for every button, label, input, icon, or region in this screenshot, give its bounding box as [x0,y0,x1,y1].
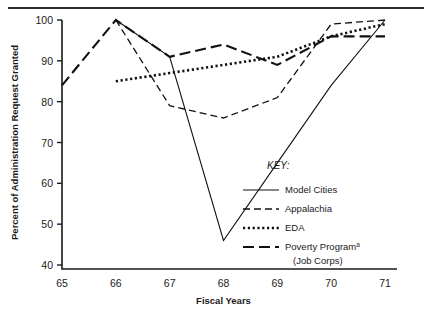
x-tick-label: 66 [110,277,122,289]
legend-label: EDA [285,222,305,233]
x-axis: 65666768697071 [56,277,391,289]
legend-label: Model Cities [285,184,338,195]
legend-label: Appalachia [285,203,333,214]
y-tick-label: 100 [35,14,53,26]
x-tick-label: 65 [56,277,68,289]
y-tick-label: 80 [41,96,53,108]
series-line [116,20,385,241]
y-tick-label: 40 [41,259,53,271]
x-tick-label: 70 [325,277,337,289]
chart-legend: KEY:Model CitiesAppalachiaEDAPoverty Pro… [243,160,360,266]
series-lines [62,20,385,241]
y-axis: 405060708090100 [35,14,62,271]
y-tick-label: 70 [41,137,53,149]
x-tick-label: 71 [379,277,391,289]
y-tick-label: 60 [41,177,53,189]
x-tick-label: 68 [218,277,230,289]
y-tick-label: 50 [41,218,53,230]
x-tick-label: 67 [164,277,176,289]
legend-title: KEY: [267,160,290,171]
x-tick-label: 69 [271,277,283,289]
legend-label: Poverty Programa [285,241,360,253]
y-axis-title: Percent of Administration Request Grante… [9,45,20,240]
chart-figure: 405060708090100 65666768697071 Percent o… [0,0,432,311]
line-chart-plot: 405060708090100 65666768697071 Percent o… [0,0,432,311]
x-axis-title: Fiscal Years [196,295,251,306]
legend-sublabel: (Job Corps) [293,255,343,266]
y-tick-label: 90 [41,55,53,67]
series-line [116,24,385,81]
series-line [62,20,385,85]
legend-superscript: a [356,241,360,248]
